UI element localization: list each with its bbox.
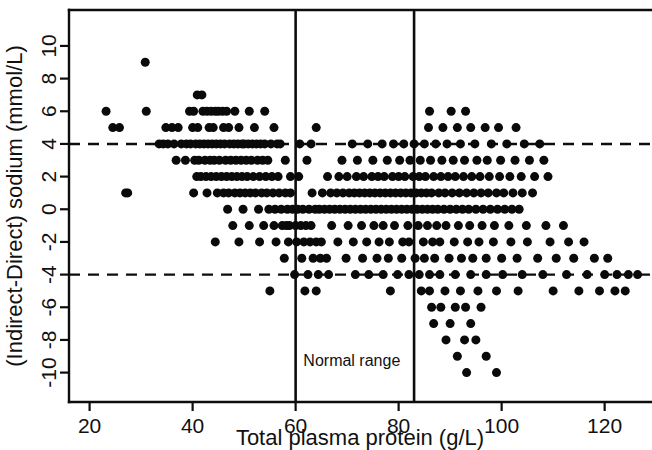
data-point bbox=[211, 237, 220, 246]
data-point bbox=[508, 188, 517, 197]
data-point bbox=[300, 286, 309, 295]
data-point bbox=[460, 335, 469, 344]
data-point bbox=[559, 221, 568, 230]
data-point bbox=[385, 237, 394, 246]
data-point bbox=[580, 237, 589, 246]
normal-range-label: Normal range bbox=[303, 352, 400, 369]
data-point bbox=[343, 172, 352, 181]
data-point bbox=[399, 139, 408, 148]
x-axis-title: Total plasma protein (g/L) bbox=[236, 425, 484, 450]
data-point bbox=[473, 286, 482, 295]
data-point bbox=[456, 286, 465, 295]
data-point bbox=[498, 270, 507, 279]
data-point bbox=[263, 156, 272, 165]
y-tick-label: 10 bbox=[37, 34, 60, 57]
data-point bbox=[574, 286, 583, 295]
data-point bbox=[549, 286, 558, 295]
data-point bbox=[451, 270, 460, 279]
data-point bbox=[472, 156, 481, 165]
x-tick-label: 120 bbox=[587, 414, 622, 437]
data-point bbox=[322, 254, 331, 263]
data-point bbox=[115, 123, 124, 132]
y-tick-label: -10 bbox=[37, 357, 60, 387]
data-point bbox=[312, 286, 321, 295]
data-point bbox=[303, 270, 312, 279]
data-point bbox=[189, 107, 198, 116]
data-point bbox=[344, 221, 353, 230]
data-point bbox=[351, 270, 360, 279]
data-point bbox=[123, 188, 132, 197]
data-point bbox=[269, 123, 278, 132]
data-point bbox=[259, 221, 268, 230]
data-point bbox=[419, 237, 428, 246]
data-point bbox=[314, 270, 323, 279]
data-point bbox=[492, 286, 501, 295]
data-point bbox=[302, 156, 311, 165]
data-point bbox=[380, 172, 389, 181]
data-point bbox=[538, 270, 547, 279]
data-point bbox=[451, 172, 460, 181]
data-point bbox=[239, 205, 248, 214]
data-point bbox=[404, 237, 413, 246]
data-point bbox=[174, 123, 183, 132]
data-point bbox=[484, 188, 493, 197]
data-point bbox=[379, 221, 388, 230]
data-point bbox=[342, 254, 351, 263]
data-point bbox=[282, 221, 291, 230]
data-point bbox=[230, 107, 239, 116]
data-point bbox=[489, 237, 498, 246]
data-point bbox=[600, 270, 609, 279]
data-point bbox=[474, 237, 483, 246]
data-point bbox=[353, 156, 362, 165]
data-point bbox=[453, 352, 462, 361]
data-point bbox=[502, 139, 511, 148]
data-point bbox=[373, 254, 382, 263]
data-point bbox=[511, 156, 520, 165]
data-point bbox=[461, 107, 470, 116]
data-point bbox=[417, 286, 426, 295]
data-point bbox=[633, 270, 642, 279]
data-point bbox=[286, 188, 295, 197]
data-point bbox=[284, 237, 293, 246]
data-point bbox=[466, 123, 475, 132]
data-point bbox=[453, 123, 462, 132]
data-point bbox=[223, 205, 232, 214]
data-point bbox=[357, 221, 366, 230]
data-point bbox=[485, 172, 494, 181]
data-point bbox=[590, 254, 599, 263]
data-point bbox=[564, 237, 573, 246]
data-point bbox=[425, 270, 434, 279]
data-point bbox=[368, 156, 377, 165]
data-point bbox=[520, 139, 529, 148]
data-point bbox=[334, 172, 343, 181]
data-point bbox=[514, 286, 523, 295]
data-point bbox=[539, 156, 548, 165]
data-point bbox=[477, 303, 486, 312]
data-point bbox=[172, 156, 181, 165]
data-point bbox=[513, 254, 522, 263]
data-point bbox=[209, 123, 218, 132]
data-point bbox=[234, 237, 243, 246]
data-point bbox=[482, 270, 491, 279]
data-point bbox=[404, 270, 413, 279]
data-point bbox=[449, 156, 458, 165]
data-point bbox=[432, 221, 441, 230]
data-point bbox=[497, 254, 506, 263]
data-point bbox=[424, 123, 433, 132]
data-point bbox=[466, 319, 475, 328]
data-point bbox=[290, 270, 299, 279]
chart-root: 20406080100120 -10-8-6-4-20246810 Normal… bbox=[0, 0, 652, 450]
data-point bbox=[621, 286, 630, 295]
data-point bbox=[363, 139, 372, 148]
data-point bbox=[379, 270, 388, 279]
data-point bbox=[389, 139, 398, 148]
data-point bbox=[224, 123, 233, 132]
y-tick-label: -4 bbox=[37, 265, 60, 284]
data-point bbox=[471, 335, 480, 344]
data-point bbox=[476, 172, 485, 181]
data-point bbox=[425, 286, 434, 295]
data-point bbox=[435, 270, 444, 279]
data-point bbox=[308, 188, 317, 197]
data-point bbox=[494, 123, 503, 132]
data-point bbox=[595, 286, 604, 295]
